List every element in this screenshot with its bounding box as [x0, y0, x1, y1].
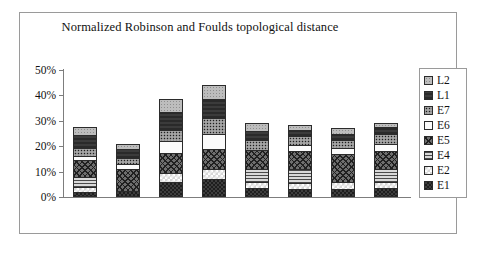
bar-segment-l1[interactable]: [159, 112, 183, 130]
legend-swatch-icon: [424, 121, 433, 130]
bar-segment-e5[interactable]: [374, 151, 398, 169]
y-axis-tick-label: 30%: [35, 115, 56, 127]
y-axis-tick-label: 10%: [35, 166, 56, 178]
legend-item-e7[interactable]: E7: [424, 103, 463, 118]
legend-item-e5[interactable]: E5: [424, 133, 463, 148]
legend-swatch-icon: [424, 136, 433, 145]
bar-segment-e7[interactable]: [73, 148, 97, 157]
stacked-bar[interactable]: [331, 128, 355, 197]
legend-item-label: E6: [437, 120, 450, 132]
bar-segment-e4[interactable]: [245, 169, 269, 182]
bar-segment-l2[interactable]: [159, 99, 183, 112]
y-axis-tick-label: 0%: [41, 191, 56, 203]
bar-segment-e6[interactable]: [202, 134, 226, 149]
y-axis-tick-mark: [59, 121, 63, 122]
bar-segment-e2[interactable]: [159, 173, 183, 182]
legend-item-e6[interactable]: E6: [424, 118, 463, 133]
legend-item-l1[interactable]: L1: [424, 88, 463, 103]
x-axis-line: [63, 197, 411, 198]
chart-legend: L2L1E7E6E5E4E2E1: [419, 68, 467, 198]
bar-segment-e7[interactable]: [331, 140, 355, 148]
bar-segment-e1[interactable]: [73, 192, 97, 197]
bar-segment-e2[interactable]: [331, 182, 355, 190]
bar-segment-e5[interactable]: [245, 150, 269, 169]
bar-segment-e6[interactable]: [159, 141, 183, 152]
bar-segment-e7[interactable]: [245, 140, 269, 150]
bar-segment-l1[interactable]: [73, 135, 97, 148]
legend-item-label: E1: [437, 180, 450, 192]
bar-segment-e7[interactable]: [202, 118, 226, 133]
bar-segment-e2[interactable]: [202, 169, 226, 179]
legend-swatch-icon: [424, 76, 433, 85]
legend-item-e4[interactable]: E4: [424, 148, 463, 163]
y-axis-tick-mark: [59, 70, 63, 71]
bar-segment-e6[interactable]: [374, 144, 398, 152]
legend-item-label: L2: [437, 75, 450, 87]
y-axis-tick-label: 50%: [35, 64, 56, 76]
bar-segment-l2[interactable]: [73, 127, 97, 135]
y-axis-tick-mark: [59, 146, 63, 147]
bar-segment-e5[interactable]: [159, 153, 183, 173]
bar-segment-e1[interactable]: [159, 182, 183, 197]
bar-segment-e1[interactable]: [116, 191, 140, 197]
bar-segment-l1[interactable]: [245, 131, 269, 140]
stacked-bar[interactable]: [202, 85, 226, 197]
bar-segment-e1[interactable]: [331, 189, 355, 197]
legend-item-label: L1: [437, 90, 450, 102]
legend-item-label: E4: [437, 150, 450, 162]
bar-segment-l1[interactable]: [116, 149, 140, 158]
legend-item-label: E7: [437, 105, 450, 117]
legend-item-label: E5: [437, 135, 450, 147]
bar-segment-e1[interactable]: [374, 188, 398, 197]
legend-item-l2[interactable]: L2: [424, 73, 463, 88]
bar-segment-l2[interactable]: [245, 123, 269, 131]
stacked-bar[interactable]: [245, 123, 269, 197]
bar-segment-e5[interactable]: [288, 151, 312, 169]
plot-area: 0%10%20%30%40%50% E1E2E4E5E6E7L1L2: [63, 70, 407, 197]
legend-swatch-icon: [424, 166, 433, 175]
stacked-bar[interactable]: [288, 125, 312, 197]
bar-segment-e7[interactable]: [159, 130, 183, 141]
legend-swatch-icon: [424, 106, 433, 115]
bar-segment-e4[interactable]: [288, 169, 312, 183]
y-axis-tick-mark: [59, 197, 63, 198]
bar-segment-e1[interactable]: [288, 189, 312, 197]
bar-segment-e5[interactable]: [202, 149, 226, 169]
bar-segment-e4[interactable]: [374, 169, 398, 182]
chart-container: Normalized Robinson and Foulds topologic…: [0, 0, 477, 254]
chart-title: Normalized Robinson and Foulds topologic…: [0, 20, 400, 35]
legend-item-e1[interactable]: E1: [424, 178, 463, 193]
y-axis-tick-label: 20%: [35, 140, 56, 152]
y-axis-tick-mark: [59, 95, 63, 96]
legend-swatch-icon: [424, 181, 433, 190]
bar-segment-e4[interactable]: [73, 177, 97, 187]
y-axis-tick-mark: [59, 172, 63, 173]
bar-segment-l1[interactable]: [202, 99, 226, 118]
bar-segment-e7[interactable]: [374, 134, 398, 144]
bar-segment-e1[interactable]: [245, 188, 269, 197]
y-axis-tick-label: 40%: [35, 89, 56, 101]
legend-item-label: E2: [437, 165, 450, 177]
bar-segment-e5[interactable]: [116, 169, 140, 191]
stacked-bar[interactable]: [374, 123, 398, 197]
legend-item-e2[interactable]: E2: [424, 163, 463, 178]
bar-segment-e7[interactable]: [288, 136, 312, 145]
stacked-bar[interactable]: [159, 99, 183, 197]
bar-segment-e5[interactable]: [331, 154, 355, 182]
bar-segment-e5[interactable]: [73, 160, 97, 177]
stacked-bar[interactable]: [116, 144, 140, 197]
bar-segment-l2[interactable]: [202, 85, 226, 99]
stacked-bar[interactable]: [73, 127, 97, 197]
bar-segment-e1[interactable]: [202, 179, 226, 197]
legend-swatch-icon: [424, 91, 433, 100]
legend-swatch-icon: [424, 151, 433, 160]
